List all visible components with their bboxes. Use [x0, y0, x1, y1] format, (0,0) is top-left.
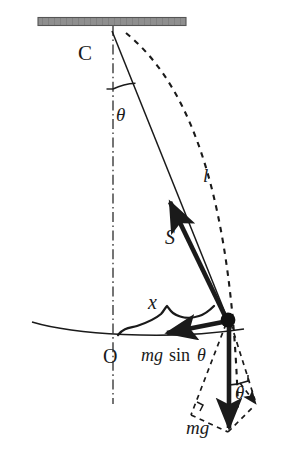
restoring-force-label-mg: mg	[141, 345, 163, 365]
tension-label-s: S	[165, 226, 175, 248]
pivot-label-c: C	[78, 41, 92, 65]
restoring-force-label-theta: θ	[197, 345, 206, 365]
restoring-force-label-sin: sin	[169, 345, 190, 365]
displacement-brace-x	[118, 306, 214, 335]
weight-label-mg: mg	[186, 417, 209, 438]
restoring-force-label: mg sin θ	[141, 345, 206, 365]
tension-vector-s	[170, 202, 226, 318]
restoring-force-vector	[167, 321, 228, 333]
bob-mass	[221, 313, 236, 328]
pendulum-diagram-canvas: C O θ l S x mg sin θ θ mg	[0, 0, 281, 459]
displacement-label-x: x	[147, 291, 157, 313]
ceiling-support	[38, 18, 186, 26]
ceiling-bar	[38, 18, 186, 26]
corner-tick-left	[197, 402, 203, 411]
component-line-left	[191, 324, 226, 415]
pendulum-figure: C O θ l S x mg sin θ θ mg	[0, 0, 281, 459]
pendulum-string	[112, 31, 228, 320]
component-line-bottom-right	[228, 406, 254, 432]
equilibrium-label-o: O	[103, 345, 117, 367]
angle-arc-top	[113, 83, 136, 89]
angle-label-bottom: θ	[235, 382, 244, 403]
component-parallelogram	[191, 324, 256, 432]
angle-label-top: θ	[116, 104, 125, 125]
length-label-l: l	[203, 165, 208, 186]
